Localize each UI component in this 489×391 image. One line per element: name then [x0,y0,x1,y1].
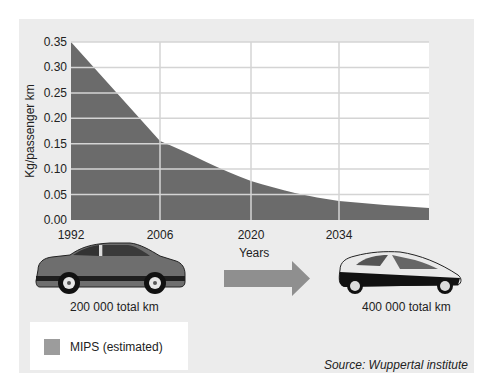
legend-swatch [44,339,60,355]
x-tick-label: 2020 [226,229,276,241]
x-tick-label: 1992 [46,229,96,241]
old-car-caption: 200 000 total km [70,300,159,314]
old-car-icon [36,243,185,294]
legend: MIPS (estimated) [30,322,188,370]
y-tick-label: 0.00 [27,214,67,226]
y-tick-label: 0.35 [27,36,67,48]
y-tick-label: 0.30 [27,61,67,73]
x-tick-label: 2006 [135,229,185,241]
new-car-icon [339,252,461,294]
new-car-caption: 400 000 total km [362,300,451,314]
arrow-icon [224,261,310,296]
source-note: Source: Wuppertal institute [324,358,468,372]
x-axis-label: Years [239,246,269,260]
y-tick-label: 0.05 [27,189,67,201]
y-axis-label: Kg/passenger km [23,81,37,181]
x-tick-label: 2034 [314,229,364,241]
legend-label: MIPS (estimated) [70,340,163,354]
